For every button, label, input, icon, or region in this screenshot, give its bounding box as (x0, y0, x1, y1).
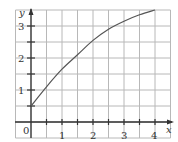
y-tick-label-1: 1 (18, 85, 24, 96)
y-axis-arrow-icon (29, 8, 34, 15)
x-tick-label-2: 2 (90, 130, 96, 141)
x-tick-label-1: 1 (59, 130, 65, 141)
x-tick-label-4: 4 (151, 130, 157, 141)
y-axis-label: y (18, 7, 25, 18)
y-tick-label-3: 3 (18, 21, 24, 32)
chart: 0 1 2 3 4 1 2 3 x y (0, 0, 178, 142)
x-axis-label: x (166, 124, 172, 135)
y-tick-label-2: 2 (18, 53, 24, 64)
origin-label: 0 (23, 125, 29, 136)
grid (16, 10, 171, 138)
x-tick-label-3: 3 (121, 130, 127, 141)
